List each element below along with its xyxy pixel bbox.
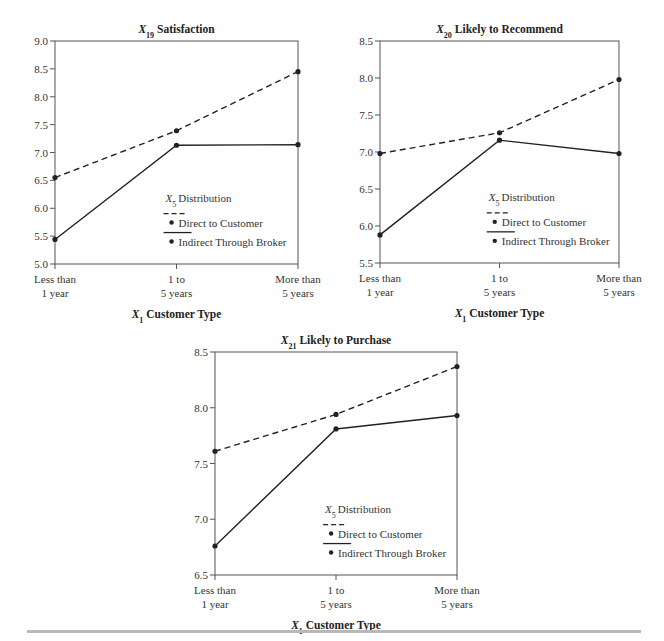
variable-subscript: 5 xyxy=(172,199,176,208)
x-tick-label: Less than xyxy=(359,272,401,284)
y-tick-label: 5.5 xyxy=(34,230,48,242)
plot-frame xyxy=(380,41,619,263)
data-point-indirect xyxy=(454,413,459,418)
y-tick-label: 9.0 xyxy=(34,35,48,47)
y-tick-label: 5.5 xyxy=(359,257,373,269)
legend-title: X5Distribution xyxy=(324,503,391,520)
x-tick-label: Less than xyxy=(194,584,236,596)
y-tick-label: 6.0 xyxy=(34,202,48,214)
legend-marker xyxy=(493,220,497,224)
variable-letter: X xyxy=(435,23,444,35)
data-point-direct xyxy=(295,69,300,74)
x-tick-label: 5 years xyxy=(282,287,313,299)
plot-frame xyxy=(215,352,457,575)
variable-letter: X xyxy=(137,23,146,35)
y-tick-label: 7.5 xyxy=(34,119,48,131)
data-point-indirect xyxy=(174,143,179,148)
y-tick-label: 8.5 xyxy=(194,346,208,358)
y-tick-label: 6.5 xyxy=(194,569,208,581)
y-tick-label: 8.0 xyxy=(34,91,48,103)
y-tick-label: 8.5 xyxy=(34,63,48,75)
series-line-indirect xyxy=(215,416,457,546)
data-point-indirect xyxy=(333,426,338,431)
label-text: Satisfaction xyxy=(157,23,215,35)
x-tick-label: More than xyxy=(275,273,321,285)
variable-letter: X xyxy=(280,334,289,346)
series-line-direct xyxy=(215,366,457,451)
legend-title: X5Distribution xyxy=(488,191,555,208)
data-point-direct xyxy=(174,128,179,133)
legend-title: X5Distribution xyxy=(165,192,232,209)
y-tick-label: 5.0 xyxy=(34,258,48,270)
y-tick-label: 7.0 xyxy=(359,146,373,158)
label-text: Customer Type xyxy=(469,307,544,320)
legend-label: Indirect Through Broker xyxy=(338,547,446,559)
legend-marker xyxy=(329,531,333,535)
data-point-direct xyxy=(52,175,57,180)
variable-subscript: 1 xyxy=(139,316,143,325)
variable-subscript: 1 xyxy=(462,315,466,324)
x-tick-label: 5 years xyxy=(603,286,634,298)
x-tick-label: 1 year xyxy=(41,287,69,299)
x-tick-label: Less than xyxy=(34,273,76,285)
legend-marker xyxy=(169,239,173,243)
variable-letter: X xyxy=(131,308,140,320)
data-point-indirect xyxy=(295,142,300,147)
chart-3: X21Likely to Purchase6.57.07.58.08.5Less… xyxy=(194,334,480,636)
legend-marker xyxy=(329,550,333,554)
y-tick-label: 8.5 xyxy=(359,35,373,47)
y-tick-label: 6.5 xyxy=(34,174,48,186)
legend-label: Indirect Through Broker xyxy=(179,236,287,248)
data-point-indirect xyxy=(497,138,502,143)
legend-label: Indirect Through Broker xyxy=(502,235,610,247)
legend-label: Direct to Customer xyxy=(338,528,423,540)
chart-title: X19Satisfaction xyxy=(137,23,215,40)
label-text: Distribution xyxy=(501,191,555,203)
x-axis-label: X1Customer Type xyxy=(290,619,381,636)
x-tick-label: More than xyxy=(596,272,642,284)
variable-subscript: 19 xyxy=(146,31,154,40)
y-tick-label: 7.5 xyxy=(194,458,208,470)
legend: X5DistributionDirect to CustomerIndirect… xyxy=(323,503,446,559)
legend: X5DistributionDirect to CustomerIndirect… xyxy=(487,191,610,247)
y-tick-label: 7.0 xyxy=(34,147,48,159)
y-tick-label: 7.0 xyxy=(194,513,208,525)
series-line-direct xyxy=(55,72,298,178)
legend-marker xyxy=(493,239,497,243)
data-point-indirect xyxy=(616,151,621,156)
x-tick-label: 1 to xyxy=(168,273,185,285)
data-point-direct xyxy=(497,130,502,135)
chart-title: X20Likely to Recommend xyxy=(435,23,563,40)
chart-title: X21Likely to Purchase xyxy=(280,334,391,351)
label-text: Customer Type xyxy=(146,308,221,321)
legend-marker xyxy=(169,220,173,224)
label-text: Likely to Recommend xyxy=(455,23,564,36)
x-axis-label: X1Customer Type xyxy=(131,308,222,325)
data-point-indirect xyxy=(377,232,382,237)
y-tick-label: 6.5 xyxy=(359,183,373,195)
variable-subscript: 5 xyxy=(495,198,499,207)
y-tick-label: 7.5 xyxy=(359,109,373,121)
data-point-direct xyxy=(212,449,217,454)
figure: X19Satisfaction5.05.56.06.57.07.58.08.59… xyxy=(0,0,664,641)
x-tick-label: 1 to xyxy=(328,584,345,596)
data-point-indirect xyxy=(52,237,57,242)
x-tick-label: 1 year xyxy=(366,286,394,298)
x-tick-label: 5 years xyxy=(320,598,351,610)
variable-subscript: 5 xyxy=(332,510,336,519)
data-point-direct xyxy=(377,151,382,156)
legend-label: Direct to Customer xyxy=(179,217,264,229)
chart-1: X19Satisfaction5.05.56.06.57.07.58.08.59… xyxy=(34,23,321,325)
variable-subscript: 20 xyxy=(444,31,452,40)
x-tick-label: 1 year xyxy=(201,598,229,610)
data-point-direct xyxy=(333,412,338,417)
chart-2: X20Likely to Recommend5.56.06.57.07.58.0… xyxy=(359,23,642,324)
x-tick-label: 1 to xyxy=(491,272,508,284)
x-tick-label: 5 years xyxy=(484,286,515,298)
bottom-rule xyxy=(27,630,641,633)
label-text: Distribution xyxy=(178,192,232,204)
x-tick-label: More than xyxy=(434,584,480,596)
legend-label: Direct to Customer xyxy=(502,216,587,228)
x-axis-label: X1Customer Type xyxy=(454,307,545,324)
variable-subscript: 21 xyxy=(288,342,296,351)
